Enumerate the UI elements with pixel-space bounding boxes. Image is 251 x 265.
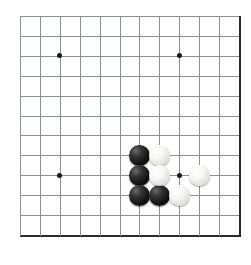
black-stone[interactable] <box>149 185 170 206</box>
black-stone[interactable] <box>129 145 150 166</box>
black-stone[interactable] <box>129 165 150 186</box>
white-stone[interactable] <box>149 145 170 166</box>
black-stone[interactable] <box>129 185 150 206</box>
white-stone[interactable] <box>189 165 210 186</box>
white-stone[interactable] <box>149 165 170 186</box>
go-board[interactable] <box>0 0 251 265</box>
white-stone[interactable] <box>169 185 190 206</box>
stone-layer[interactable] <box>0 0 251 265</box>
